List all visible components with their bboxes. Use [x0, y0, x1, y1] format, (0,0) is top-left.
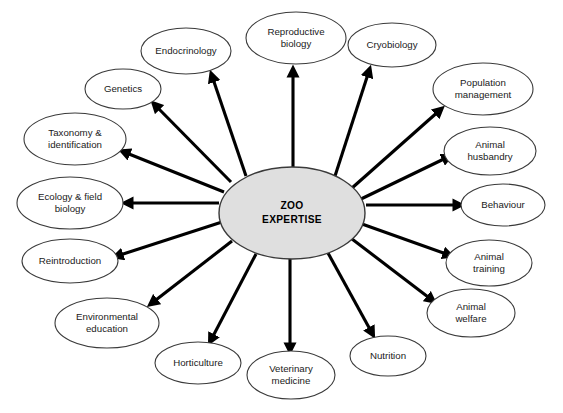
- caption-sliver: [6, 402, 206, 410]
- node-reproductive-biology[interactable]: Reproductivebiology: [246, 12, 346, 64]
- node-label-environmental-education-line2: education: [86, 323, 128, 334]
- node-label-reproductive-biology-line1: Reproductive: [267, 26, 324, 37]
- connector-arrow-nutrition: [328, 253, 372, 333]
- node-label-animal-welfare-line2: welfare: [454, 313, 486, 324]
- node-cryobiology[interactable]: Cryobiology: [348, 23, 436, 67]
- node-animal-welfare[interactable]: Animalwelfare: [427, 289, 515, 337]
- hub-label-line2: EXPERTISE: [262, 214, 322, 225]
- node-label-environmental-education-line1: Environmental: [76, 311, 138, 322]
- node-population-management[interactable]: Populationmanagement: [433, 63, 533, 115]
- connector-arrow-animal-training: [362, 224, 449, 255]
- node-label-animal-training-line1: Animal: [474, 251, 504, 262]
- node-label-genetics: Genetics: [104, 83, 142, 94]
- node-label-taxonomy-identification-line2: identification: [48, 139, 102, 150]
- connector-arrow-animal-welfare: [352, 239, 432, 300]
- node-reintroduction[interactable]: Reintroduction: [22, 239, 118, 283]
- node-environmental-education[interactable]: Environmentaleducation: [55, 298, 159, 348]
- node-nutrition[interactable]: Nutrition: [350, 336, 426, 376]
- node-label-cryobiology: Cryobiology: [366, 39, 417, 50]
- connector-arrow-horticulture: [211, 254, 256, 340]
- node-label-reproductive-biology-line2: biology: [281, 38, 312, 49]
- node-endocrinology[interactable]: Endocrinology: [141, 28, 231, 74]
- node-label-nutrition: Nutrition: [370, 350, 406, 361]
- hub-label-line1: ZOO: [281, 200, 304, 211]
- node-taxonomy-identification[interactable]: Taxonomy &identification: [24, 113, 126, 165]
- connector-arrow-endocrinology: [212, 76, 246, 176]
- node-label-animal-training-line2: training: [473, 263, 505, 274]
- node-label-reintroduction: Reintroduction: [39, 255, 101, 266]
- connector-arrow-environmental-education: [152, 241, 232, 303]
- node-label-behaviour: Behaviour: [481, 199, 525, 210]
- node-label-ecology-field-biology-line1: Ecology & field: [38, 191, 102, 202]
- node-genetics[interactable]: Genetics: [85, 69, 161, 109]
- node-veterinary-medicine[interactable]: Veterinarymedicine: [247, 351, 335, 399]
- node-label-ecology-field-biology-line2: biology: [55, 203, 86, 214]
- connector-arrow-cryobiology: [335, 71, 369, 176]
- node-label-veterinary-medicine-line1: Veterinary: [269, 363, 313, 374]
- node-animal-training[interactable]: Animaltraining: [446, 240, 532, 286]
- node-label-animal-husbandry-line2: husbandry: [467, 151, 512, 162]
- connector-arrow-animal-husbandry: [361, 157, 448, 199]
- hub-group: ZOO EXPERTISE: [219, 167, 365, 259]
- node-label-horticulture: Horticulture: [173, 357, 223, 368]
- connector-arrow-population-management: [352, 110, 440, 188]
- diagram-canvas: EndocrinologyReproductivebiologyCryobiol…: [0, 0, 563, 413]
- node-label-veterinary-medicine-line2: medicine: [272, 375, 311, 386]
- zoo-expertise-diagram: EndocrinologyReproductivebiologyCryobiol…: [0, 0, 563, 413]
- node-animal-husbandry[interactable]: Animalhusbandry: [444, 127, 536, 175]
- node-label-population-management-line2: management: [455, 89, 512, 100]
- node-label-population-management-line1: Population: [460, 77, 506, 88]
- connector-arrow-reintroduction: [117, 222, 222, 256]
- node-ecology-field-biology[interactable]: Ecology & fieldbiology: [17, 177, 123, 229]
- node-label-animal-welfare-line1: Animal: [456, 301, 486, 312]
- node-label-taxonomy-identification-line1: Taxonomy &: [48, 127, 102, 138]
- node-behaviour[interactable]: Behaviour: [461, 184, 545, 226]
- node-label-endocrinology: Endocrinology: [155, 45, 217, 56]
- node-label-animal-husbandry-line1: Animal: [475, 139, 505, 150]
- node-horticulture[interactable]: Horticulture: [155, 342, 241, 384]
